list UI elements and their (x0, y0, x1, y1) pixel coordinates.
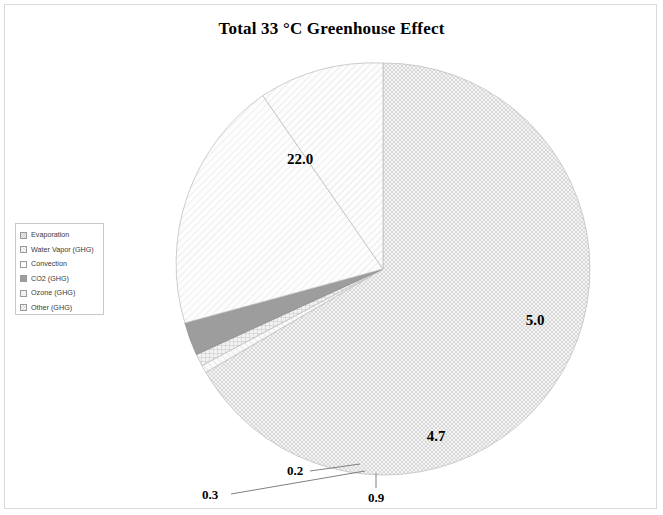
legend-swatch-icon (20, 246, 27, 253)
pie-label-convection: 4.7 (427, 428, 446, 444)
pie-label-other: 0.2 (287, 463, 303, 478)
pie-label-evaporation: 22.0 (287, 151, 313, 167)
legend-item-label: Other (GHG) (31, 304, 72, 311)
legend-item-other[interactable]: Other (GHG) (20, 301, 100, 315)
legend-item-co2[interactable]: CO2 (GHG) (20, 272, 100, 286)
legend-swatch-icon (20, 261, 27, 268)
legend-swatch-icon (20, 275, 27, 282)
legend-item-water-vapor[interactable]: Water Vapor (GHG) (20, 243, 100, 257)
legend-swatch-icon (20, 304, 27, 311)
legend-item-evaporation[interactable]: Evaporation (20, 228, 100, 242)
legend-swatch-icon (20, 290, 27, 297)
legend-item-ozone[interactable]: Ozone (GHG) (20, 286, 100, 300)
pie-label-water-vapor: 5.0 (526, 312, 545, 328)
legend-item-label: Ozone (GHG) (31, 289, 75, 296)
chart-frame: Total 33 °C Greenhouse Effect (4, 4, 657, 509)
chart-legend: Evaporation Water Vapor (GHG) Convection… (15, 223, 104, 315)
legend-item-label: Convection (31, 260, 67, 267)
legend-swatch-icon (20, 232, 27, 239)
pie-label-ozone: 0.3 (202, 487, 219, 502)
legend-item-label: Water Vapor (GHG) (31, 246, 94, 253)
pie-label-co2: 0.9 (368, 490, 385, 505)
legend-item-label: Evaporation (31, 231, 69, 238)
legend-item-convection[interactable]: Convection (20, 257, 100, 271)
legend-item-label: CO2 (GHG) (31, 275, 69, 282)
